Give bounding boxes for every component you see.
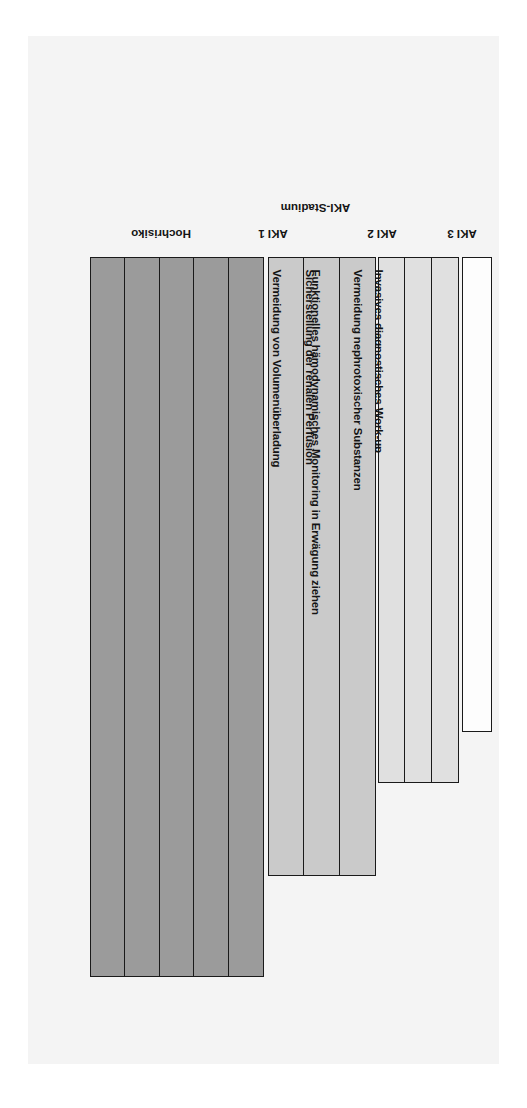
bar-label-b3: Vermeidung von Volumenüberladung: [276, 270, 287, 468]
cat-tick-aki3: AKI 3: [426, 228, 498, 241]
bar-b10[interactable]: Strenge Indikationsstellung bei Kontrast…: [404, 257, 432, 783]
bar-b12[interactable]: Subclavia-Katheter nach Möglichkeit verm…: [462, 257, 492, 732]
bar-b4[interactable]: Sicherstellung der renalen Perfusion: [193, 257, 229, 977]
cat-tick-aki1: AKI 1: [237, 228, 309, 241]
bar-group-hochrisiko: Hyperglykämien vermeiden (Zielglukose <1…: [90, 257, 268, 977]
bar-b3[interactable]: Vermeidung von Volumenüberladung: [159, 257, 195, 977]
rotated-chart-container: Subclavia-Katheter nach Möglichkeit verm…: [0, 0, 527, 1108]
bar-group-aki2: Medikamentendosierungen an Nierenfunktio…: [378, 257, 461, 977]
bar-b11[interactable]: Nierenersatztherapie in Erwägung ziehen: [431, 257, 459, 783]
bar-b2[interactable]: Funktionelles hämodynamisches Monitoring…: [124, 257, 160, 977]
bar-b1[interactable]: Hyperglykämien vermeiden (Zielglukose <1…: [90, 257, 126, 977]
cat-tick-aki2: AKI 2: [346, 228, 418, 241]
plot-area: Subclavia-Katheter nach Möglichkeit verm…: [23, 257, 492, 977]
figure-root: Subclavia-Katheter nach Möglichkeit verm…: [0, 0, 527, 1108]
cat-tick-hochrisiko: Hochrisiko: [108, 228, 214, 241]
bar-label-b6: Invasives diagnostisches Work-up: [378, 270, 389, 453]
bar-b5[interactable]: Vermeidung nephrotoxischer Substanzen: [228, 257, 264, 977]
bar-label-b5: Vermeidung nephrotoxischer Substanzen: [356, 270, 367, 491]
bar-group-aki3-white: Subclavia-Katheter nach Möglichkeit verm…: [462, 257, 492, 977]
axis-title: AKI-Stadium: [23, 202, 492, 215]
bar-label-b4: Sicherstellung der renalen Perfusion: [309, 270, 320, 465]
